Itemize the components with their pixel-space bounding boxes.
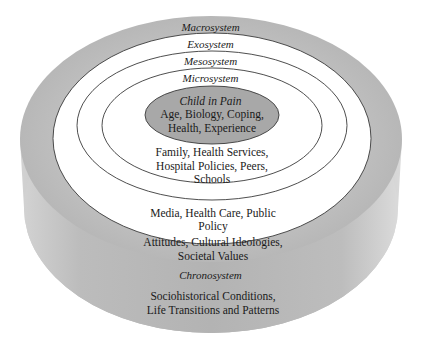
microsystem-title: Microsystem — [0, 72, 421, 85]
core-body: Age, Biology, Coping, Health, Experience — [150, 108, 274, 135]
exosystem-body: Media, Health Care, Public Policy — [150, 207, 276, 233]
microsystem-body: Family, Health Services, Hospital Polici… — [148, 146, 276, 187]
chronosystem-body: Sociohistorical Conditions, Life Transit… — [140, 290, 286, 317]
macrosystem-title: Macrosystem — [0, 21, 421, 34]
mesosystem-title: Mesosystem — [0, 55, 421, 68]
chronosystem-title: Chronosystem — [0, 269, 421, 282]
exosystem-title: Exosystem — [0, 38, 421, 51]
macrosystem-body: Attitudes, Cultural Ideologies, Societal… — [140, 236, 286, 263]
core-title: Child in Pain — [0, 95, 421, 108]
